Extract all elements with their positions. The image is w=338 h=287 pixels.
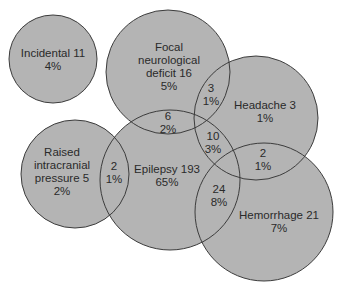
- intersection-label-line: 3%: [205, 143, 222, 156]
- set-label-line: 65%: [134, 176, 200, 189]
- intersection-label-raised-icp-epilepsy: 21%: [106, 160, 123, 186]
- set-label-line: 5%: [138, 80, 200, 93]
- set-label-raised-icp: Raisedintracranialpressure 52%: [34, 146, 90, 198]
- set-label-line: Hemorrhage 21: [239, 209, 319, 222]
- intersection-label-line: 1%: [203, 95, 220, 108]
- set-label-line: neurological: [138, 54, 200, 67]
- set-label-line: deficit 16: [138, 67, 200, 80]
- set-label-line: Headache 3: [234, 99, 296, 112]
- set-label-hemorrhage: Hemorrhage 217%: [239, 209, 319, 235]
- set-label-line: 1%: [234, 112, 296, 125]
- set-label-incidental: Incidental 114%: [21, 47, 85, 73]
- intersection-label-line: 10: [205, 130, 222, 143]
- intersection-label-line: 24: [211, 183, 228, 196]
- intersection-label-epilepsy-headache: 103%: [205, 130, 222, 156]
- intersection-label-headache-hemorrhage: 21%: [255, 147, 272, 173]
- intersection-label-line: 3: [203, 82, 220, 95]
- set-label-line: pressure 5: [34, 172, 90, 185]
- set-label-line: intracranial: [34, 159, 90, 172]
- set-label-headache: Headache 31%: [234, 99, 296, 125]
- set-label-line: Focal: [138, 41, 200, 54]
- intersection-label-line: 2: [106, 160, 123, 173]
- intersection-label-focal-epilepsy: 62%: [160, 110, 177, 136]
- intersection-label-line: 8%: [211, 196, 228, 209]
- intersection-label-line: 6: [160, 110, 177, 123]
- intersection-label-line: 1%: [255, 160, 272, 173]
- set-label-line: 7%: [239, 222, 319, 235]
- set-label-line: Raised: [34, 146, 90, 159]
- set-label-line: Incidental 11: [21, 47, 85, 60]
- intersection-label-line: 2%: [160, 123, 177, 136]
- intersection-label-epilepsy-hemorrhage: 248%: [211, 183, 228, 209]
- set-label-focal: Focalneurologicaldeficit 165%: [138, 41, 200, 93]
- set-label-line: Epilepsy 193: [134, 163, 200, 176]
- intersection-label-line: 1%: [106, 173, 123, 186]
- intersection-label-line: 2: [255, 147, 272, 160]
- set-label-epilepsy: Epilepsy 19365%: [134, 163, 200, 189]
- set-label-line: 2%: [34, 185, 90, 198]
- intersection-label-focal-headache: 31%: [203, 82, 220, 108]
- set-label-line: 4%: [21, 60, 85, 73]
